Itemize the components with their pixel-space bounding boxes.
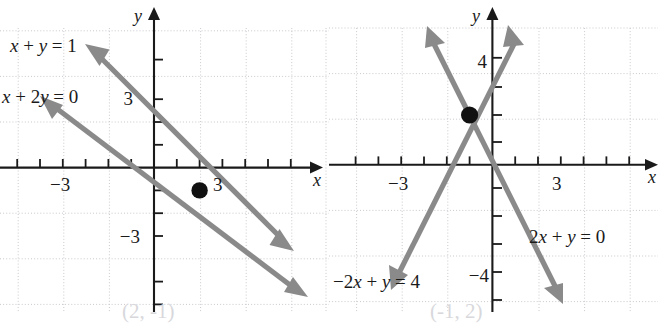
grid-lines <box>0 28 329 312</box>
right-plot-svg: x y −3 3 4 −4 −2x + y = 4 2x + y = 0 <box>329 0 658 321</box>
y-axis-label: y <box>470 6 480 26</box>
y-tick-label-neg4: −4 <box>469 265 490 286</box>
graph-line-neg2x-plus-y-equals-4 <box>389 25 524 290</box>
panel-right: x y −3 3 4 −4 −2x + y = 4 2x + y = 0 <box>329 0 658 321</box>
y-axis <box>148 7 163 312</box>
graph-line-x-plus-2y-equals-0 <box>40 96 308 297</box>
equation-label-x-plus-2y-equals-0: x + 2y = 0 <box>1 86 78 107</box>
equation-label-neg2x-plus-y-equals-4: −2x + y = 4 <box>333 271 421 292</box>
y-tick-label-neg3: −3 <box>120 226 140 247</box>
y-axis-label: y <box>132 6 142 26</box>
x-axis <box>0 159 323 174</box>
x-tick-label-neg3: −3 <box>50 174 70 195</box>
grid-lines <box>329 28 658 312</box>
bottom-clipped-text-left: (2, -1) <box>122 299 174 324</box>
equation-label-2x-plus-y-equals-0: 2x + y = 0 <box>529 226 605 247</box>
x-tick-label-3: 3 <box>552 173 562 194</box>
x-axis-label: x <box>647 167 656 187</box>
x-tick-label-neg3: −3 <box>388 173 408 194</box>
left-plot-svg: x y −3 3 3 −3 x + y = 1 x + 2y = 0 <box>0 0 329 321</box>
panel-left: x y −3 3 3 −3 x + y = 1 x + 2y = 0 <box>0 0 329 321</box>
bottom-clipped-text-right: (-1, 2) <box>430 299 482 324</box>
intersection-point <box>191 182 207 198</box>
x-tick-label-3: 3 <box>213 174 223 195</box>
intersection-point <box>461 106 478 123</box>
graph-line-x-plus-y-equals-1 <box>85 44 294 251</box>
y-tick-label-4: 4 <box>478 51 488 72</box>
y-tick-label-3: 3 <box>124 88 134 109</box>
equation-label-x-plus-y-equals-1: x + y = 1 <box>9 35 77 56</box>
x-axis-label: x <box>312 170 321 190</box>
